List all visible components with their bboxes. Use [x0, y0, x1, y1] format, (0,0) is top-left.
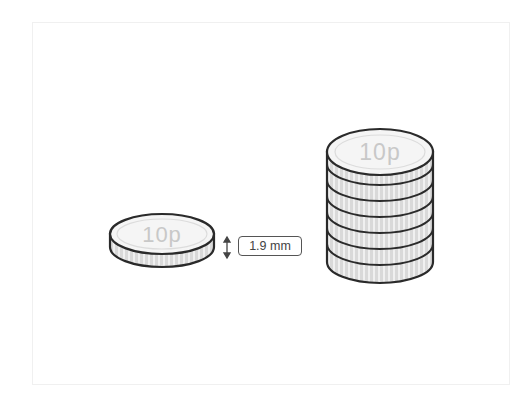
thickness-label: 1.9 mm [238, 236, 302, 256]
coin-illustration [0, 0, 531, 400]
stack-coin-label: 10p [350, 139, 410, 166]
single-coin-label: 10p [132, 222, 192, 248]
vertical-double-arrow-icon [224, 237, 230, 258]
